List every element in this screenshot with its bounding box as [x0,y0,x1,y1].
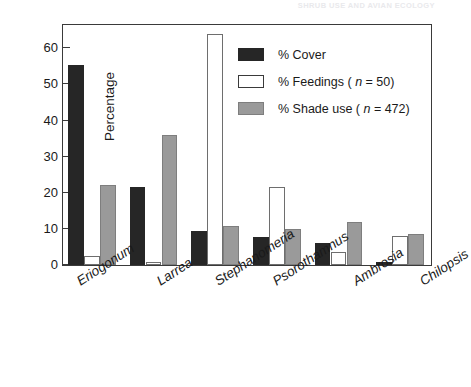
y-tick-label: 20 [44,185,58,200]
y-tick-label: 0 [51,257,58,272]
bar-feed-ambrosia [331,252,347,265]
y-tick-label: 60 [44,40,58,55]
y-tick-label: 50 [44,76,58,91]
legend-label: % Feedings ( n = 50) [278,75,394,89]
bar-shade-chilopsis [408,234,424,265]
bar-shade-larrea [162,135,178,265]
legend-item-feed: % Feedings ( n = 50) [238,68,433,95]
legend-swatch-shade-icon [238,102,264,115]
legend-label: % Cover [278,48,326,62]
legend-item-shade: % Shade use ( n = 472) [238,95,433,122]
running-header: SHRUB USE AND AVIAN ECOLOGY [298,1,435,10]
bar-cover-eriogonum [68,65,84,265]
bar-shade-ambrosia [347,222,363,265]
y-tick-label: 40 [44,113,58,128]
legend-label: % Shade use ( n = 472) [278,102,410,116]
y-tick-label: 30 [44,149,58,164]
bar-feed-larrea [146,262,162,265]
bar-feed-stephanomeria [207,34,223,265]
legend-swatch-cover-icon [238,48,264,61]
legend-swatch-feed-icon [238,75,264,88]
y-tick-label: 10 [44,221,58,236]
chart-legend: % Cover% Feedings ( n = 50)% Shade use (… [238,41,433,122]
legend-item-cover: % Cover [238,41,433,68]
bar-cover-stephanomeria [191,231,207,265]
